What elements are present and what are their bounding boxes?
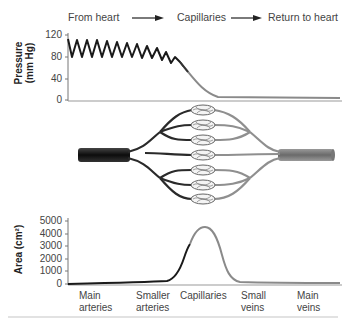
area-tick-2000: 2000: [28, 253, 62, 264]
area-tick-0: 0: [28, 278, 62, 289]
main-artery: [78, 148, 130, 162]
category-main-veins: Main veins: [297, 290, 320, 314]
area-tick-4000: 4000: [28, 228, 62, 239]
flow-arrow-1-icon: [132, 15, 164, 21]
area-curve-arterial: [68, 244, 190, 284]
pressure-curve-venous: [184, 67, 340, 98]
vessel-diagram: [78, 105, 335, 204]
capillary-bed-icon: [191, 105, 215, 115]
capillary-bed-icon: [191, 120, 215, 130]
pressure-curve-arterial: [68, 39, 184, 67]
category-line2: arteries: [136, 302, 170, 314]
capillary-bed-icon: [191, 150, 215, 160]
category-capillaries: Capillaries: [180, 290, 227, 302]
category-line2: veins: [241, 302, 266, 314]
area-tick-3000: 3000: [28, 240, 62, 251]
area-tick-1000: 1000: [28, 265, 62, 276]
capillary-beds: [191, 105, 215, 204]
pressure-axis-label: Pressure (mm Hg): [13, 33, 35, 93]
category-line1: Capillaries: [180, 290, 227, 302]
capillary-bed-icon: [191, 135, 215, 145]
capillary-bed-icon: [191, 194, 215, 204]
category-main-arteries: Main arteries: [79, 290, 112, 314]
category-line2: veins: [297, 302, 320, 314]
category-line1: Main: [79, 290, 112, 302]
pressure-label-line2: (mm Hg): [24, 33, 35, 93]
area-tick-5000: 5000: [28, 215, 62, 226]
main-vein: [278, 149, 334, 161]
cropped-caption: [8, 314, 348, 320]
pressure-label-line1: Pressure: [13, 33, 24, 93]
category-line1: Small: [241, 290, 266, 302]
capillary-bed-icon: [191, 165, 215, 175]
venous-branches: [214, 110, 280, 199]
arterial-branches: [128, 110, 192, 199]
flow-arrow-2-icon: [231, 15, 262, 21]
area-axis-label: Area (cm²): [13, 218, 24, 282]
category-small-veins: Small veins: [241, 290, 266, 314]
category-smaller-arteries: Smaller arteries: [136, 290, 170, 314]
area-curve-venous: [190, 227, 340, 283]
pressure-tick-0: 0: [28, 94, 62, 105]
category-line1: Main: [297, 290, 320, 302]
category-line2: arteries: [79, 302, 112, 314]
category-line1: Smaller: [136, 290, 170, 302]
capillary-bed-icon: [191, 180, 215, 190]
